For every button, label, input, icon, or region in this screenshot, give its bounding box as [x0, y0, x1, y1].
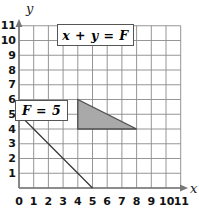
y-tick-label: 3 [0, 138, 16, 149]
x-axis-label: x [190, 182, 197, 195]
y-tick-label: 8 [0, 65, 16, 76]
x-tick-label: 8 [130, 196, 144, 207]
y-axis-arrow-icon [16, 19, 23, 27]
x-tick-label: 10 [159, 196, 173, 207]
y-tick-label: 7 [0, 79, 16, 90]
f-value-callout: F = 5 [15, 100, 68, 121]
x-tick-label: 1 [27, 196, 41, 207]
coordinate-plot-figure: y x 1234567891011 01234567891011 x + y =… [0, 0, 199, 216]
y-tick-label: 10 [0, 35, 16, 46]
x-tick-label: 7 [115, 196, 129, 207]
y-tick-label: 9 [0, 50, 16, 61]
y-axis-label: y [26, 2, 33, 15]
y-tick-label: 5 [0, 109, 16, 120]
x-tick-label: 6 [100, 196, 114, 207]
x-axis-arrow-icon [180, 185, 188, 192]
y-tick-label: 11 [0, 20, 16, 31]
x-tick-label: 5 [86, 196, 100, 207]
equation-callout: x + y = F [57, 24, 134, 46]
y-tick-label: 4 [0, 124, 16, 135]
x-tick-label: 4 [71, 196, 85, 207]
x-tick-label: 11 [174, 196, 188, 207]
x-tick-label: 2 [41, 196, 55, 207]
y-tick-label: 2 [0, 153, 16, 164]
y-tick-label: 6 [0, 94, 16, 105]
y-tick-label: 1 [0, 168, 16, 179]
x-tick-label: 9 [144, 196, 158, 207]
origin-tick-label: 0 [12, 196, 26, 207]
x-tick-label: 3 [56, 196, 70, 207]
